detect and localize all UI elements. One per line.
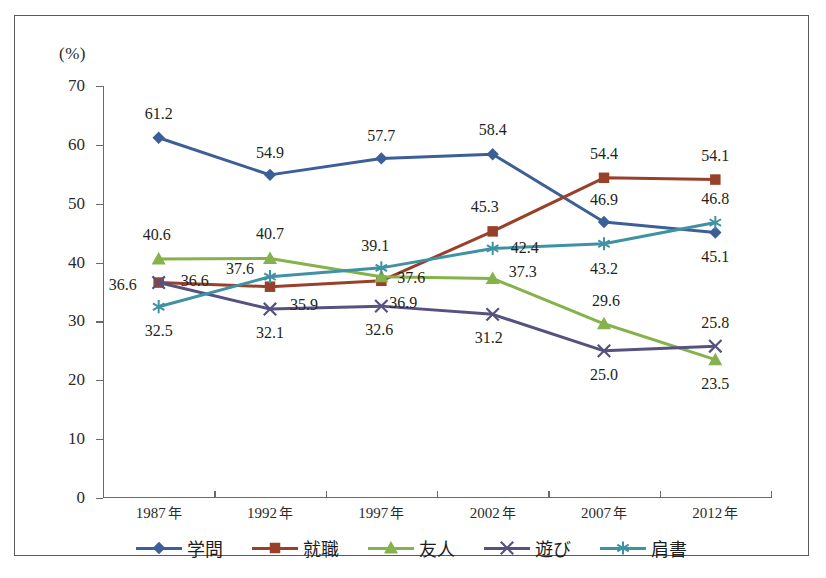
data-point-label: 42.4 (511, 239, 539, 257)
data-point-diamond (375, 152, 387, 164)
legend-item-asterisk[interactable]: 肩書 (600, 535, 688, 561)
data-point-label: 58.4 (479, 121, 507, 139)
data-point-label: 40.6 (143, 226, 171, 244)
data-point-label: 45.1 (701, 248, 729, 266)
y-tick-label: 0 (77, 488, 86, 508)
data-point-label: 23.5 (701, 375, 729, 393)
legend-marker-diamond (150, 540, 168, 556)
legend-marker-triangle (382, 540, 400, 556)
data-point-label: 25.0 (590, 366, 618, 384)
data-point-label: 31.2 (475, 329, 503, 347)
y-tick: 10 (96, 439, 103, 440)
data-point-label: 32.1 (256, 324, 284, 342)
legend-label: 友人 (419, 535, 456, 561)
data-point-label: 32.5 (145, 322, 173, 340)
y-tick-label: 40 (68, 253, 85, 273)
legend-label: 肩書 (651, 535, 688, 561)
y-tick: 30 (96, 321, 103, 322)
y-axis-unit-label: (%) (59, 44, 86, 64)
legend-item-diamond[interactable]: 学問 (136, 535, 224, 561)
data-point-square (269, 543, 280, 554)
legend-marker-square (266, 540, 284, 556)
y-tick: 50 (96, 204, 103, 205)
legend-item-x[interactable]: 遊び (484, 535, 572, 561)
y-tick-label: 20 (68, 370, 85, 390)
series-diamond (152, 132, 721, 239)
legend-swatch (368, 541, 414, 555)
series-lines (103, 86, 771, 498)
legend-marker-asterisk (614, 540, 632, 556)
data-point-asterisk (617, 541, 628, 554)
legend-item-triangle[interactable]: 友人 (368, 535, 456, 561)
legend-swatch (600, 541, 646, 555)
legend-swatch (484, 541, 530, 555)
y-tick-label: 60 (68, 135, 85, 155)
x-tick-label: 1997年 (358, 502, 404, 522)
x-tick-label: 2007年 (581, 502, 627, 522)
y-tick-label: 30 (68, 311, 85, 331)
x-tick-label: 2002年 (470, 502, 516, 522)
data-point-x (500, 542, 512, 554)
data-point-triangle (384, 541, 398, 553)
data-point-label: 37.3 (509, 263, 537, 281)
data-point-square (710, 174, 721, 185)
legend-item-square[interactable]: 就職 (252, 535, 340, 561)
data-point-label: 37.6 (226, 260, 254, 278)
data-point-label: 45.3 (471, 198, 499, 216)
x-tick-label: 1987年 (136, 502, 182, 522)
legend-label: 就職 (303, 535, 340, 561)
plot-area: 010203040506070 61.254.957.758.446.945.1… (103, 86, 771, 498)
chart-page: (%) 010203040506070 61.254.957.758.446.9… (0, 0, 826, 578)
data-point-label: 39.1 (361, 237, 389, 255)
chart-legend: 学問就職友人遊び肩書 (15, 535, 808, 561)
y-tick: 40 (96, 263, 103, 264)
series-line (159, 138, 716, 233)
y-tick: 20 (96, 380, 103, 381)
data-point-label: 35.9 (290, 296, 318, 314)
y-tick-label: 70 (68, 76, 85, 96)
x-tick-label: 1992年 (247, 502, 293, 522)
x-tick (771, 491, 772, 498)
data-point-square (599, 173, 610, 184)
data-point-label: 36.9 (389, 294, 417, 312)
y-tick-label: 50 (68, 194, 85, 214)
legend-swatch (136, 541, 182, 555)
data-point-label: 46.8 (701, 190, 729, 208)
data-point-label: 61.2 (145, 105, 173, 123)
data-point-label: 29.6 (592, 292, 620, 310)
y-tick: 70 (96, 86, 103, 87)
data-point-label: 25.8 (701, 314, 729, 332)
series-x (152, 276, 721, 357)
data-point-label: 37.6 (397, 269, 425, 287)
y-tick: 0 (96, 498, 103, 499)
legend-marker-x (498, 540, 516, 556)
data-point-square (487, 226, 498, 237)
y-tick: 60 (96, 145, 103, 146)
data-point-label: 43.2 (590, 260, 618, 278)
data-point-label: 54.9 (256, 144, 284, 162)
legend-label: 学問 (187, 535, 224, 561)
chart-frame: (%) 010203040506070 61.254.957.758.446.9… (14, 15, 809, 556)
data-point-label: 57.7 (367, 127, 395, 145)
x-tick-label: 2012年 (692, 502, 738, 522)
data-point-label: 36.6 (109, 276, 137, 294)
data-point-label: 54.1 (701, 147, 729, 165)
legend-swatch (252, 541, 298, 555)
data-point-label: 54.4 (590, 145, 618, 163)
data-point-label: 32.6 (365, 321, 393, 339)
data-point-diamond (264, 169, 276, 181)
series-line (159, 283, 716, 351)
data-point-diamond (152, 542, 164, 554)
data-point-label: 36.6 (181, 272, 209, 290)
data-point-label: 46.9 (590, 191, 618, 209)
data-point-label: 40.7 (256, 225, 284, 243)
data-point-diamond (152, 132, 164, 144)
y-tick-label: 10 (68, 429, 85, 449)
legend-label: 遊び (535, 535, 572, 561)
